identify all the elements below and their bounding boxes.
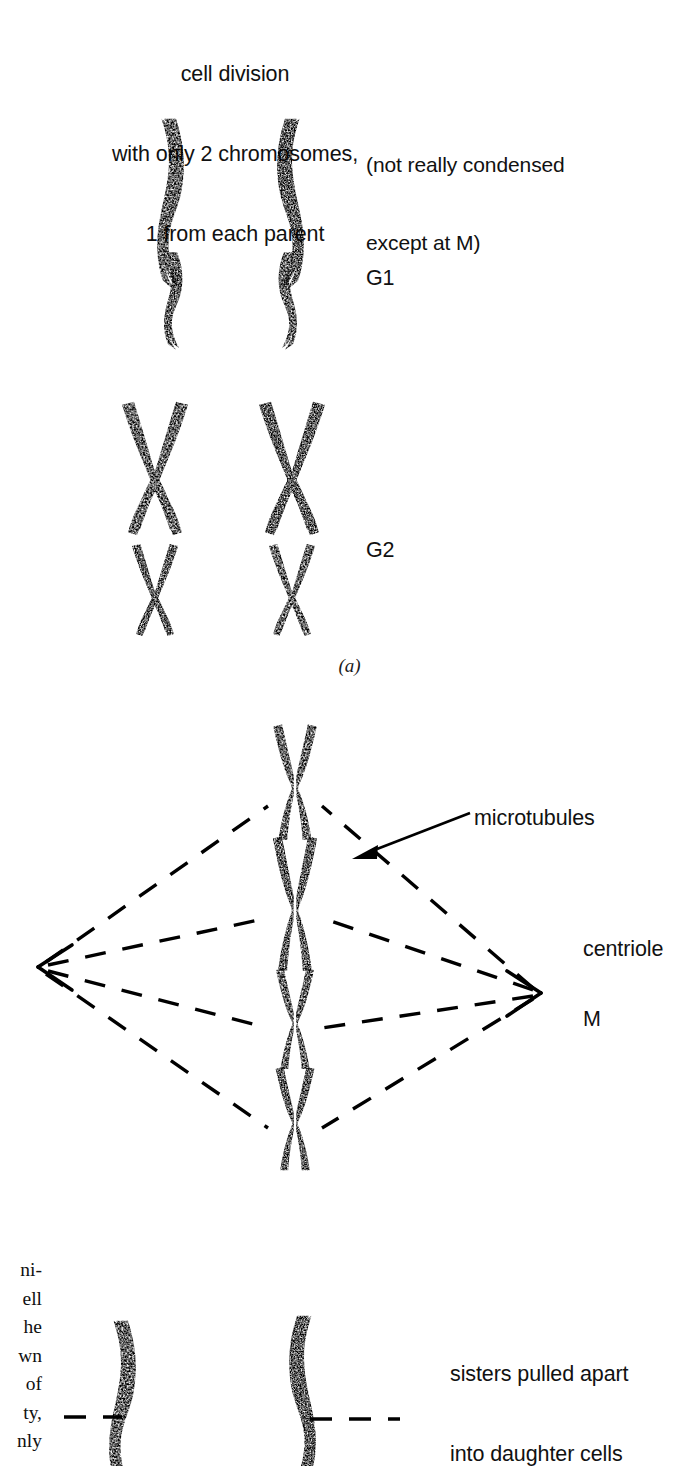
g2-chromosome-group [122,402,325,636]
caption-fragment-line-3: he [0,1313,42,1342]
m-chromosome-4 [276,1067,315,1170]
condensation-note-line-2: except at M) [366,230,565,256]
panel-label-a: (a) [0,655,699,677]
anaphase-group [64,1316,400,1466]
sisters-label-line-2: into daughter cells [450,1441,628,1466]
microtubules-leader-line [352,813,470,859]
sisters-label-line-1: sisters pulled apart [450,1361,628,1388]
figure-title-line-1: cell division [0,61,470,88]
stage-label-g2: G2 [366,537,394,564]
caption-fragment: ni- ell he wn of ty, nly [0,1256,42,1456]
m-chromosome-1 [273,725,317,840]
m-chromosome-2 [273,836,317,970]
caption-fragment-line-1: ni- [0,1256,42,1285]
microtubules-label: microtubules [474,805,595,832]
condensation-note-line-1: (not really condensed [366,152,565,178]
microtubules-leader-arrowhead [352,845,378,859]
m-chromosome-3 [276,968,314,1069]
stage-label-m: M [583,1006,601,1033]
daughter-chromatid-right [289,1316,316,1466]
cell-division-figure: cell division with only 2 chromosomes, 1… [0,0,699,1466]
mitotic-spindle [38,725,541,1171]
g2-chromosome-small-right [269,544,315,636]
centriole-pole-right-arrowhead [507,971,541,1016]
sisters-pulled-apart-label: sisters pulled apart into daughter cells [450,1308,628,1466]
daughter-chromatid-left [109,1321,136,1466]
centriole-label: centriole [583,936,663,963]
microtubule-fibers-right [322,806,533,1128]
caption-fragment-line-5: of [0,1370,42,1399]
centriole-pole-left-arrowhead [38,945,72,990]
caption-fragment-line-6: ty, [0,1399,42,1428]
caption-fragment-line-7: nly [0,1427,42,1456]
caption-fragment-line-2: ell [0,1285,42,1314]
condensation-note: (not really condensed except at M) [366,100,565,308]
microtubule-fibers-left [46,806,268,1128]
caption-fragment-line-4: wn [0,1342,42,1371]
stage-label-g1: G1 [366,265,394,292]
g2-chromosome-small-left [132,544,178,636]
g2-chromosome-large-right [259,402,325,535]
g2-chromosome-large-left [122,402,188,535]
